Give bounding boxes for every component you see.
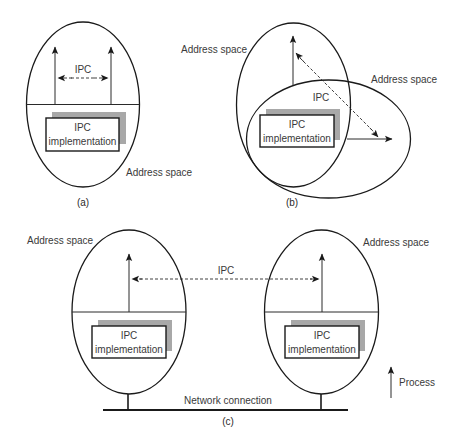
network-connection-label: Network connection [184, 395, 272, 406]
caption-c: (c) [222, 416, 234, 427]
address-space-label-left: Address space [27, 235, 94, 246]
caption-a: (a) [77, 197, 89, 208]
ipc-diagram: IPC IPC implementation Address space (a)… [0, 0, 458, 442]
impl-box-line2: implementation [49, 136, 117, 147]
panel-b: IPC IPC implementation Address space Add… [181, 23, 438, 208]
impl-box-line2: implementation [95, 344, 163, 355]
impl-box-line1: IPC [289, 119, 306, 130]
impl-box-line1: IPC [314, 330, 331, 341]
panel-a: IPC IPC implementation Address space (a) [27, 22, 193, 208]
impl-box-line2: implementation [288, 344, 356, 355]
impl-box-line2: implementation [263, 133, 331, 144]
impl-box-line1: IPC [121, 330, 138, 341]
legend: Process [391, 367, 435, 398]
caption-b: (b) [286, 197, 298, 208]
impl-box-line1: IPC [74, 122, 91, 133]
ipc-label: IPC [75, 64, 92, 75]
ipc-label: IPC [218, 265, 235, 276]
panel-c: Network connection (c) IPC implementatio… [27, 230, 430, 427]
ipc-dashed-arrow-icon [370, 128, 378, 137]
ipc-label: IPC [313, 92, 330, 103]
process-legend-label: Process [399, 377, 435, 388]
address-space-label: Address space [126, 167, 193, 178]
address-space-label-left: Address space [181, 44, 248, 55]
right-address-space: IPC implementation Address space [265, 230, 430, 394]
ipc-dashed-arrow-icon [296, 53, 304, 62]
address-space-label-right: Address space [363, 237, 430, 248]
address-space-label-right: Address space [371, 74, 438, 85]
left-address-space: IPC implementation Address space [27, 230, 186, 394]
